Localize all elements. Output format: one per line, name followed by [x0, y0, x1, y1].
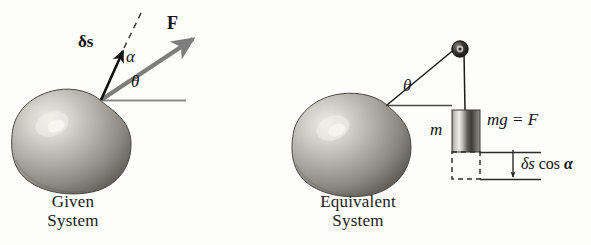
caption-equivalent-line1: Equivalent [320, 192, 396, 211]
caption-given-line1: Given [52, 192, 95, 211]
caption-given-line2: System [47, 211, 98, 230]
displaced-block-outline [452, 152, 480, 179]
label-alpha-part: α [564, 155, 573, 172]
caption-equivalent-system: Equivalent System [288, 192, 428, 230]
label-cos-part: cos [539, 155, 560, 172]
hanging-block [452, 110, 480, 152]
label-angle-theta-left: θ [131, 72, 139, 92]
given-system-group [12, 11, 193, 194]
cord-sphere-to-pulley [387, 48, 456, 105]
label-delta-s-cos-alpha: δs cos α [521, 155, 573, 173]
label-angle-alpha: α [126, 47, 135, 67]
caption-equivalent-line2: System [332, 211, 383, 230]
label-force-F: F [167, 13, 178, 34]
label-mass-m: m [430, 120, 442, 140]
given-system-ball [12, 89, 131, 194]
label-angle-theta-right: θ [403, 76, 411, 96]
caption-given-system: Given System [13, 192, 133, 230]
label-displacement-delta-s: δs [78, 32, 93, 52]
physics-figure: δs F α θ Given System θ m mg = F δs cos … [0, 0, 591, 245]
label-weight-mg-equals-F: mg = F [487, 110, 538, 130]
pulley-icon [452, 41, 468, 57]
dashed-extension-line [124, 11, 142, 48]
cord-pulley-to-block [464, 52, 465, 111]
equivalent-system-ball [292, 93, 411, 196]
label-delta-s-part: δs [521, 155, 535, 172]
